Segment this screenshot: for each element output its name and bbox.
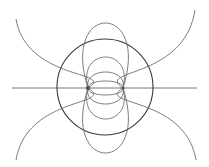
outer-field-arc bbox=[16, 88, 94, 160]
circle-outline bbox=[57, 39, 153, 135]
outer-field-arc bbox=[16, 19, 94, 88]
outer-field-arc bbox=[117, 88, 196, 160]
equipotential-circle bbox=[57, 39, 153, 135]
dipole-field-diagram bbox=[0, 0, 209, 167]
outer-field-arcs bbox=[16, 10, 196, 160]
right-charge-dot bbox=[121, 86, 124, 89]
left-charge-dot bbox=[86, 86, 90, 90]
outer-field-arc bbox=[117, 10, 195, 88]
